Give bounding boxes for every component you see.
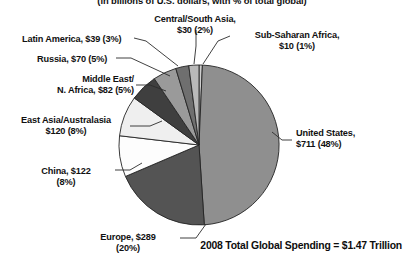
leader-line-latin-america	[134, 38, 178, 66]
slice-label-europe: Europe, $289 (20%)	[78, 232, 178, 255]
slice-label-united-states: United States, $711 (48%)	[296, 128, 400, 151]
slice-label-east-asia-line1: East Asia/Australasia	[21, 115, 111, 125]
slice-label-latin-america: Latin America, $39 (3%)	[22, 34, 121, 45]
slice-label-middle-east-line1: Middle East/	[82, 74, 134, 84]
slice-label-china-line2: (8%)	[57, 177, 76, 187]
pie-slice-united-states	[199, 65, 279, 225]
slice-label-china-line1: China, $122	[41, 166, 90, 176]
total-spending-caption: 2008 Total Global Spending = $1.47 Trill…	[196, 240, 402, 251]
slice-label-east-asia: East Asia/Australasia $120 (8%)	[3, 115, 129, 138]
slice-label-central-south-asia-line1: Central/South Asia,	[154, 14, 236, 24]
slice-label-united-states-line1: United States,	[296, 128, 355, 138]
slice-label-middle-east-line2: N. Africa, $82 (5%)	[57, 85, 134, 95]
slice-label-russia: Russia, $70 (5%)	[37, 54, 107, 65]
slice-label-sub-saharan-africa: Sub-Saharan Africa, $10 (1%)	[232, 30, 362, 53]
pie-slice-group	[119, 65, 279, 225]
slice-label-middle-east: Middle East/ N. Africa, $82 (5%)	[8, 74, 134, 97]
slice-label-central-south-asia-line2: $30 (2%)	[177, 25, 213, 35]
leader-line-subsaharan	[203, 36, 230, 64]
slice-label-europe-line2: (20%)	[116, 243, 140, 253]
slice-label-china: China, $122 (8%)	[18, 166, 114, 189]
slice-label-united-states-line2: $711 (48%)	[296, 139, 342, 149]
pie-chart-figure: (in billions of U.S. dollars, with % of …	[0, 0, 404, 262]
slice-label-sub-saharan-africa-line1: Sub-Saharan Africa,	[255, 30, 340, 40]
slice-label-sub-saharan-africa-line2: $10 (1%)	[279, 41, 315, 51]
slice-label-europe-line1: Europe, $289	[100, 232, 155, 242]
slice-label-east-asia-line2: $120 (8%)	[45, 126, 86, 136]
leader-line-europe	[180, 224, 206, 238]
